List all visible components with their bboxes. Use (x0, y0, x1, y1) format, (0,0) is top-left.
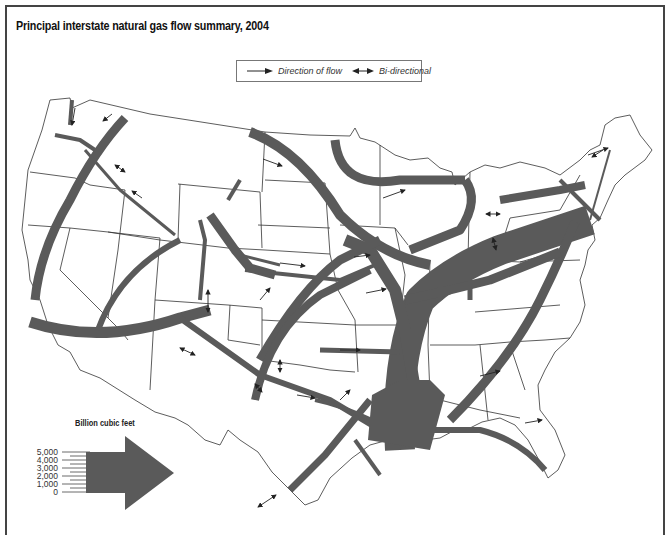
scale-arrow-icon (20, 418, 200, 518)
gulf-supply-block (368, 380, 445, 450)
width-scale-legend: Billion cubic feet 5,000 4,000 3,000 2,0… (20, 418, 200, 518)
